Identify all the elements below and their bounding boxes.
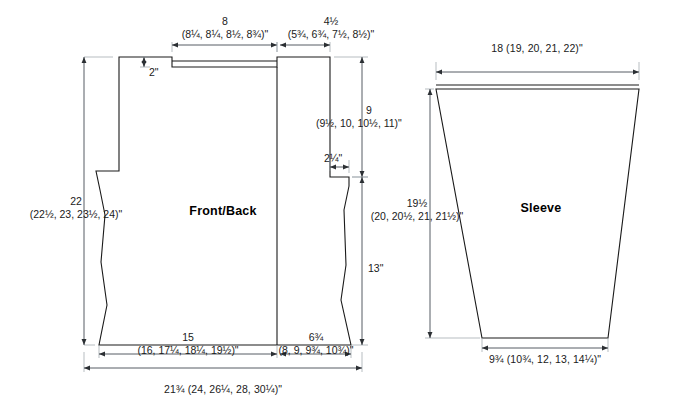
label-total-bottom-width: 21¾ (24, 26¼, 28, 30¼)" — [164, 383, 282, 395]
label-shoulder-width: 8 (8¼, 8¼, 8½, 8¾)" — [182, 15, 269, 40]
label-shoulder-width-primary: 8 — [182, 15, 269, 28]
label-armhole-depth: 9 (9½, 10, 10½, 11)" — [366, 104, 402, 129]
label-sleeve-cuff-width: 9¾ (10¾, 12, 13, 14¼)" — [489, 353, 601, 365]
dim-neck-width — [277, 42, 330, 52]
label-total-length-primary: 22 — [30, 195, 122, 208]
front-back-outline — [96, 57, 351, 345]
label-armhole-depth-primary: 9 — [366, 104, 402, 117]
label-sleeve-length: 19½ (20, 20½, 21, 21½)" — [371, 197, 463, 222]
label-lower-right-width-primary: 6¾ — [279, 331, 354, 344]
label-lower-right-width: 6¾ (8, 9, 9¾, 10¾)" — [279, 331, 354, 356]
label-neck-width: 4½ (5¾, 6¾, 7½, 8½)" — [288, 15, 375, 40]
schematic-diagram: 8 (8¼, 8¼, 8½, 8¾)" 4½ (5¾, 6¾, 7½, 8½)"… — [0, 0, 693, 417]
label-total-length: 22 (22½, 23, 23½, 24)" — [30, 195, 122, 220]
piece-label-sleeve: Sleeve — [521, 201, 562, 215]
dim-shoulder-width — [172, 42, 277, 52]
dim-sleeve-upper-width — [436, 62, 639, 80]
label-side-length: 13" — [368, 262, 383, 274]
label-shoulder-width-sizes: (8¼, 8¼, 8½, 8¾)" — [182, 28, 269, 41]
label-armhole-depth-sizes: (9½, 10, 10½, 11)" — [316, 117, 402, 130]
label-sleeve-upper-width: 18 (19, 20, 21, 22)" — [491, 42, 583, 54]
label-lower-right-width-sizes: (8, 9, 9¾, 10¾)" — [279, 344, 354, 357]
label-lower-left-width-primary: 15 — [137, 331, 238, 344]
label-total-length-sizes: (22½, 23, 23½, 24)" — [30, 208, 122, 221]
label-neck-width-primary: 4½ — [288, 15, 375, 28]
label-lower-left-width-sizes: (16, 17¼, 18¼, 19½)" — [137, 344, 238, 357]
label-neck-depth: 2" — [149, 66, 159, 78]
label-sleeve-length-primary: 19½ — [371, 197, 463, 210]
label-side-step: 2¼" — [324, 152, 342, 164]
label-lower-left-width: 15 (16, 17¼, 18¼, 19½)" — [137, 331, 238, 356]
piece-label-front-back: Front/Back — [189, 204, 256, 218]
dim-sleeve-cuff-width — [482, 338, 608, 352]
label-sleeve-length-sizes: (20, 20½, 21, 21½)" — [371, 210, 463, 223]
dim-side-length — [352, 177, 368, 345]
label-neck-width-sizes: (5¾, 6¾, 7½, 8½)" — [288, 28, 375, 41]
